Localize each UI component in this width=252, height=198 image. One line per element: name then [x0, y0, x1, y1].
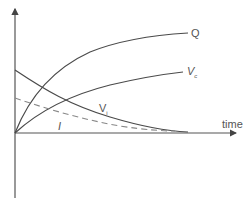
label-vc: Vc	[187, 65, 197, 79]
charging-curves-diagram: Q Vc Vi I time	[0, 0, 252, 198]
label-i: I	[58, 120, 61, 132]
label-vi: Vi	[99, 102, 108, 116]
curve-q	[15, 33, 188, 133]
label-q: Q	[191, 27, 200, 39]
x-axis-label: time	[222, 118, 243, 130]
curve-vi	[15, 70, 188, 132]
